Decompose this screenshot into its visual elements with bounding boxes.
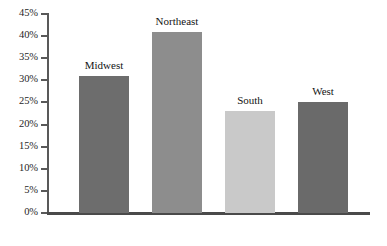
y-tick-mark — [41, 146, 47, 148]
y-axis-line — [47, 13, 49, 214]
bar-south[interactable] — [225, 111, 275, 213]
y-tick-mark — [41, 57, 47, 59]
y-tick-label: 10% — [0, 163, 38, 173]
bar-chart: 0%5%10%15%20%25%30%35%40%45% MidwestNort… — [0, 0, 387, 246]
y-tick-mark — [41, 79, 47, 81]
bar-west[interactable] — [298, 102, 348, 213]
y-tick-label: 0% — [0, 207, 38, 217]
bar-label-south: South — [210, 94, 290, 106]
bar-label-west: West — [283, 85, 363, 97]
y-tick-label: 45% — [0, 8, 38, 18]
y-tick-label: 35% — [0, 52, 38, 62]
bar-label-midwest: Midwest — [64, 59, 144, 71]
y-tick-label: 40% — [0, 30, 38, 40]
bar-northeast[interactable] — [152, 32, 202, 213]
y-tick-mark — [41, 190, 47, 192]
y-tick-mark — [41, 13, 47, 15]
y-tick-label: 15% — [0, 141, 38, 151]
y-tick-mark — [41, 168, 47, 170]
bar-midwest[interactable] — [79, 76, 129, 213]
y-tick-mark — [41, 35, 47, 37]
y-tick-label: 25% — [0, 96, 38, 106]
y-tick-label: 5% — [0, 185, 38, 195]
y-tick-mark — [41, 212, 47, 214]
y-tick-mark — [41, 101, 47, 103]
bar-label-northeast: Northeast — [137, 15, 217, 27]
y-tick-mark — [41, 124, 47, 126]
y-tick-label: 20% — [0, 119, 38, 129]
y-tick-label: 30% — [0, 74, 38, 84]
